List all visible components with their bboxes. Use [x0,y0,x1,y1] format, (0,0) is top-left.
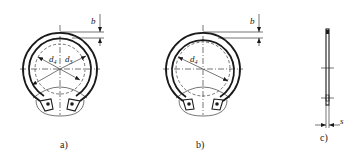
d3-label: d3 [65,54,73,65]
b-label: b [91,16,96,26]
caption-a: a) [60,139,68,151]
right-lug [67,99,80,111]
right-lug-hole [70,102,74,106]
d3-dimension-line-lower [32,69,60,85]
d4-dimension-line-lower [203,69,228,81]
ring-side-profile [326,29,329,105]
view-c: s c) [315,29,344,144]
d3-dimension-line [60,56,86,69]
view-a: d4 d3 b a) [20,14,104,151]
top-lug-section [326,30,329,34]
caption-c: c) [320,132,328,144]
view-b: d4 b b) [163,14,263,151]
d4-label: d4 [49,54,57,65]
d4-label: d4 [190,54,198,65]
circlip-drawing: d4 d3 b a) d4 b b) [0,0,357,165]
left-lug-hole [187,102,191,106]
b-label: b [250,16,255,26]
caption-b: b) [196,139,204,151]
left-lug [40,99,53,111]
left-lug-hole [46,102,50,106]
s-label: s [340,116,344,126]
d4-dimension-line-lower [60,69,80,80]
right-lug-hole [215,102,219,106]
